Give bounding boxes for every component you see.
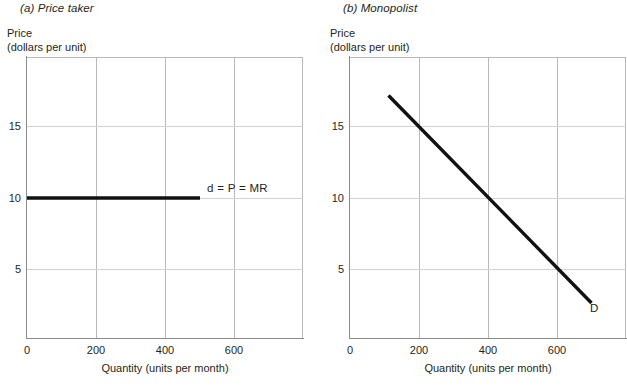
panel-b-curve-label: D bbox=[590, 302, 598, 314]
panel-b-x-tick-0: 0 bbox=[347, 345, 353, 356]
panel-a-title: (a) Price taker bbox=[20, 2, 94, 14]
panel-a-y-axis-title: Price (dollars per unit) bbox=[7, 27, 86, 54]
panel-b-x-axis-line bbox=[349, 338, 627, 339]
panel-a-plot-area: 15 10 5 0 200 400 600 d = P = MR Quantit… bbox=[27, 57, 303, 338]
panel-b-title: (b) Monopolist bbox=[343, 2, 417, 14]
panel-a-x-tick-200: 200 bbox=[87, 345, 105, 356]
panel-a-x-tick-400: 400 bbox=[156, 345, 174, 356]
panel-a-curve-label: d = P = MR bbox=[207, 182, 268, 194]
panel-price-taker: (a) Price taker Price (dollars per unit)… bbox=[0, 0, 313, 387]
panel-a-y-axis-title-line2: (dollars per unit) bbox=[7, 41, 86, 55]
panel-a-y-tick-10: 10 bbox=[9, 193, 21, 204]
panel-b-x-tick-200: 200 bbox=[410, 345, 428, 356]
panel-a-x-axis-title: Quantity (units per month) bbox=[27, 362, 303, 374]
economics-figure: (a) Price taker Price (dollars per unit)… bbox=[0, 0, 627, 387]
panel-b-curve-svg bbox=[350, 57, 626, 338]
panel-b-x-tick-600: 600 bbox=[548, 345, 566, 356]
panel-a-x-tick-600: 600 bbox=[225, 345, 243, 356]
panel-b-plot-area: 15 10 5 0 200 400 600 D Quantity (units … bbox=[350, 57, 626, 338]
panel-a-x-tick-0: 0 bbox=[24, 345, 30, 356]
panel-monopolist: (b) Monopolist Price (dollars per unit) … bbox=[323, 0, 627, 387]
panel-a-y-tick-15: 15 bbox=[9, 121, 21, 132]
panel-a-x-axis-line bbox=[26, 338, 304, 339]
panel-a-curve-svg bbox=[27, 57, 303, 338]
panel-b-x-axis-title: Quantity (units per month) bbox=[350, 362, 626, 374]
panel-b-x-tick-400: 400 bbox=[479, 345, 497, 356]
panel-b-y-axis-title: Price (dollars per unit) bbox=[330, 27, 409, 54]
panel-a-y-tick-5: 5 bbox=[15, 264, 21, 275]
panel-b-y-tick-10: 10 bbox=[332, 193, 344, 204]
panel-b-y-tick-15: 15 bbox=[332, 121, 344, 132]
demand-monopolist-line bbox=[389, 96, 592, 304]
panel-b-y-tick-5: 5 bbox=[338, 264, 344, 275]
panel-a-y-axis-title-line1: Price bbox=[7, 27, 32, 39]
panel-b-y-axis-title-line2: (dollars per unit) bbox=[330, 41, 409, 55]
panel-b-y-axis-title-line1: Price bbox=[330, 27, 355, 39]
